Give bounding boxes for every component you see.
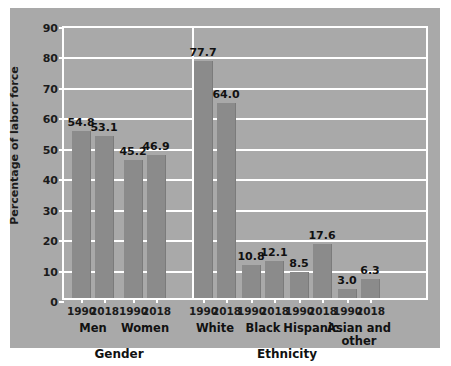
y-axis-title-text: Percentage of labor force bbox=[8, 66, 21, 224]
x-axis-tick-mark bbox=[347, 298, 349, 303]
bar: 10.8 bbox=[242, 265, 261, 298]
x-axis-section-label: Gender bbox=[94, 347, 143, 361]
x-axis-tick-mark bbox=[81, 298, 83, 303]
x-axis-year-label: 2018 bbox=[356, 305, 385, 317]
x-axis-tick-mark bbox=[299, 298, 301, 303]
bar: 45.2 bbox=[124, 160, 143, 298]
bar: 77.7 bbox=[194, 61, 213, 298]
y-axis-tick-mark bbox=[59, 118, 64, 120]
bar: 3.0 bbox=[338, 289, 357, 298]
group-label-line: Asian and bbox=[327, 322, 391, 335]
bar-value-label: 8.5 bbox=[289, 257, 309, 270]
x-axis-group-label: Men bbox=[79, 322, 106, 335]
gridline bbox=[64, 210, 426, 212]
x-axis-group-label: White bbox=[196, 322, 234, 335]
bar: 8.5 bbox=[290, 272, 309, 298]
x-axis-tick-mark bbox=[274, 298, 276, 303]
bar-value-label: 64.0 bbox=[212, 88, 239, 101]
group-label-line: Black bbox=[246, 322, 281, 335]
x-axis-section-label: Ethnicity bbox=[257, 347, 317, 361]
bar: 53.1 bbox=[95, 136, 114, 298]
y-axis-tick-mark bbox=[59, 179, 64, 181]
bar-value-label: 17.6 bbox=[308, 229, 335, 242]
bar-value-label: 77.7 bbox=[189, 46, 216, 59]
gridline bbox=[64, 57, 426, 59]
y-axis-tick-mark bbox=[59, 57, 64, 59]
y-axis-title: Percentage of labor force bbox=[6, 8, 22, 282]
y-axis-tick-mark bbox=[59, 149, 64, 151]
bar-value-label: 6.3 bbox=[360, 264, 380, 277]
gridline bbox=[64, 149, 426, 151]
x-axis-tick-mark bbox=[322, 298, 324, 303]
x-axis-tick-mark bbox=[203, 298, 205, 303]
bar: 17.6 bbox=[313, 244, 332, 298]
y-axis-tick-label: 40 bbox=[43, 174, 58, 187]
gridline bbox=[64, 240, 426, 242]
x-axis-year-label: 2018 bbox=[142, 305, 171, 317]
bar-value-label: 46.9 bbox=[142, 140, 169, 153]
chart-panel: Percentage of labor force 01020304050607… bbox=[10, 8, 440, 348]
y-axis-tick-label: 50 bbox=[43, 143, 58, 156]
y-axis-tick-mark bbox=[59, 271, 64, 273]
bar-value-label: 53.1 bbox=[90, 121, 117, 134]
bar-value-label: 12.1 bbox=[260, 246, 287, 259]
group-label-line: Women bbox=[121, 322, 169, 335]
y-axis-tick-label: 60 bbox=[43, 113, 58, 126]
y-axis-tick-mark bbox=[59, 301, 64, 303]
bar: 64.0 bbox=[217, 103, 236, 298]
x-axis-tick-mark bbox=[104, 298, 106, 303]
bar: 46.9 bbox=[147, 155, 166, 298]
bar: 12.1 bbox=[265, 261, 284, 298]
y-axis-tick-label: 70 bbox=[43, 82, 58, 95]
gridline bbox=[64, 118, 426, 120]
y-axis-tick-label: 90 bbox=[43, 22, 58, 35]
x-axis-year-label: 2018 bbox=[90, 305, 119, 317]
gridline bbox=[64, 88, 426, 90]
plot-area: 010203040506070809054.8199053.12018Men45… bbox=[62, 26, 428, 300]
y-axis-tick-label: 10 bbox=[43, 265, 58, 278]
x-axis-tick-mark bbox=[226, 298, 228, 303]
group-label-line: Men bbox=[79, 322, 106, 335]
x-axis-group-label: Women bbox=[121, 322, 169, 335]
y-axis-tick-mark bbox=[59, 88, 64, 90]
y-axis-tick-label: 80 bbox=[43, 52, 58, 65]
y-axis-tick-mark bbox=[59, 27, 64, 29]
y-axis-tick-mark bbox=[59, 240, 64, 242]
x-axis-group-label: Asian andother bbox=[327, 322, 391, 347]
bar: 54.8 bbox=[72, 131, 91, 298]
bar: 6.3 bbox=[361, 279, 380, 298]
x-axis-group-label: Black bbox=[246, 322, 281, 335]
x-axis-tick-mark bbox=[251, 298, 253, 303]
gridline bbox=[64, 179, 426, 181]
x-axis-tick-mark bbox=[156, 298, 158, 303]
group-label-line: other bbox=[327, 335, 391, 348]
x-axis-tick-mark bbox=[133, 298, 135, 303]
bar-value-label: 3.0 bbox=[337, 274, 357, 287]
y-axis-tick-label: 30 bbox=[43, 204, 58, 217]
y-axis-tick-label: 20 bbox=[43, 235, 58, 248]
y-axis-tick-label: 0 bbox=[50, 296, 58, 309]
group-label-line: White bbox=[196, 322, 234, 335]
x-axis-tick-mark bbox=[370, 298, 372, 303]
y-axis-tick-mark bbox=[59, 210, 64, 212]
